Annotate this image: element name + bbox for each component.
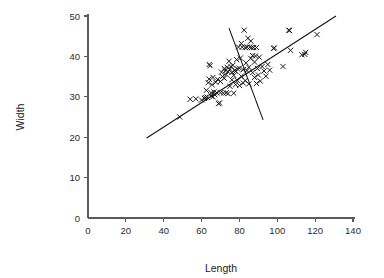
y-tick-label: 20 <box>69 132 80 143</box>
data-point-marker <box>314 32 319 37</box>
data-point-marker <box>265 62 270 67</box>
axes <box>88 14 355 218</box>
y-tick-label: 0 <box>75 213 80 224</box>
data-point-marker <box>188 97 193 102</box>
y-tick-label: 50 <box>69 11 80 22</box>
y-tick-label: 40 <box>69 51 80 62</box>
data-point-marker <box>257 55 262 60</box>
x-tick-label: 100 <box>269 225 285 236</box>
data-point-marker <box>231 91 236 96</box>
data-point-marker <box>261 68 266 73</box>
data-point-marker <box>260 64 265 69</box>
x-tick-label: 140 <box>345 225 361 236</box>
data-point-marker <box>288 48 293 53</box>
data-point-marker <box>263 74 268 79</box>
y-tick-label: 10 <box>69 172 80 183</box>
data-point-marker <box>219 70 224 75</box>
plot-canvas: 020406080100120140 01020304050 Length Wi… <box>0 0 384 278</box>
data-point-marker <box>215 77 220 82</box>
fit-lines <box>147 16 336 138</box>
scatter-plot-figure: 020406080100120140 01020304050 Length Wi… <box>0 0 384 278</box>
data-point-marker <box>193 96 198 101</box>
x-tick-label: 0 <box>85 225 90 236</box>
x-tick-label: 60 <box>196 225 207 236</box>
x-tick-label: 20 <box>121 225 132 236</box>
data-point-marker <box>243 60 248 65</box>
data-point-marker <box>248 38 253 43</box>
y-axis-label: Width <box>14 103 26 130</box>
data-point-marker <box>204 88 209 93</box>
data-point-marker <box>229 77 234 82</box>
data-point-marker <box>250 70 255 75</box>
data-points <box>177 28 319 120</box>
x-tick-label: 80 <box>234 225 245 236</box>
y-tick-label: 30 <box>69 91 80 102</box>
data-point-marker <box>225 91 230 96</box>
data-point-marker <box>267 68 272 73</box>
data-point-marker <box>254 45 259 50</box>
major-axis-line <box>147 16 336 138</box>
data-point-marker <box>242 28 247 33</box>
data-point-marker <box>280 64 285 69</box>
y-axis-ticks: 01020304050 <box>69 11 88 224</box>
data-point-marker <box>177 114 182 119</box>
x-tick-label: 40 <box>158 225 169 236</box>
x-axis-label: Length <box>205 262 237 274</box>
data-point-marker <box>252 59 257 64</box>
x-axis-ticks: 020406080100120140 <box>85 218 361 236</box>
x-tick-label: 120 <box>307 225 323 236</box>
